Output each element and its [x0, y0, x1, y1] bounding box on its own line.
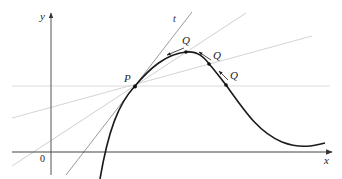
point-q-2-label: Q	[213, 49, 221, 61]
tangent-label: t	[173, 13, 176, 24]
y-axis-label: y	[39, 10, 45, 22]
point-q-1-label: Q	[182, 34, 190, 46]
point-q-3-label: Q	[230, 69, 238, 81]
point-q-2	[207, 62, 211, 66]
point-p	[133, 85, 137, 89]
function-curve	[100, 52, 325, 179]
secant-tangent-diagram: y x 0 t P Q Q Q	[0, 0, 342, 179]
origin-label: 0	[40, 153, 45, 164]
x-axis-label: x	[323, 154, 329, 166]
point-p-label: P	[123, 72, 131, 84]
secant-line-pq1	[12, 13, 246, 166]
point-q-1	[184, 50, 188, 54]
secant-line-pq2	[12, 36, 312, 118]
point-q-3	[224, 83, 228, 87]
